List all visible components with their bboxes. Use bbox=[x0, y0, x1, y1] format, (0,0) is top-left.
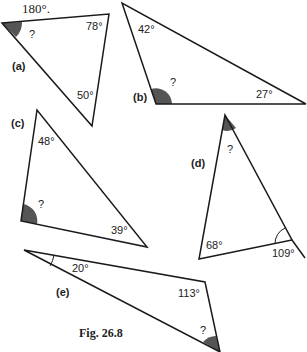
triangle-e-angle-3: ? bbox=[200, 325, 206, 336]
triangle-a-angle-2: 78° bbox=[86, 21, 103, 32]
triangle-d-angle-1: ? bbox=[227, 144, 233, 155]
triangle-b-label: (b) bbox=[133, 92, 147, 103]
triangle-a-angle-3: 50° bbox=[77, 90, 94, 101]
triangle-b-angle-2: ? bbox=[170, 77, 176, 88]
triangle-b-angle-3: 27° bbox=[256, 89, 273, 100]
triangle-a-angle-1: ? bbox=[29, 29, 35, 40]
figure-caption: Fig. 26.8 bbox=[79, 327, 123, 339]
diagram-canvas bbox=[0, 0, 307, 352]
triangle-d-angle-3: 109° bbox=[272, 248, 295, 259]
triangle-b bbox=[122, 3, 306, 104]
header-fragment: 180°. bbox=[22, 2, 50, 15]
triangle-c-angle-1: 48° bbox=[38, 136, 55, 147]
triangle-d-angle-2: 68° bbox=[206, 240, 223, 251]
unknown-angle-shade-b bbox=[151, 88, 172, 104]
triangle-e-label: (e) bbox=[56, 287, 69, 298]
triangle-c-angle-2: ? bbox=[38, 199, 44, 210]
triangle-a-label: (a) bbox=[12, 61, 25, 72]
triangle-c-label: (c) bbox=[11, 118, 24, 129]
triangle-d-label: (d) bbox=[191, 158, 205, 169]
triangle-d bbox=[199, 115, 305, 259]
triangle-e-angle-2: 113° bbox=[178, 288, 200, 299]
triangle-e-angle-1: 20° bbox=[72, 263, 89, 274]
triangle-b-angle-1: 42° bbox=[138, 24, 155, 35]
triangle-c bbox=[21, 110, 147, 247]
triangle-c-angle-3: 39° bbox=[111, 225, 128, 236]
